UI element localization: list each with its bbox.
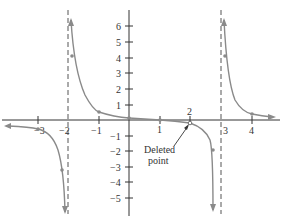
y-tick-label: −2 — [110, 146, 121, 157]
arrowheads — [4, 18, 276, 214]
x-tick-label: 2 — [187, 106, 192, 117]
y-tick-label: 3 — [116, 68, 121, 79]
arrow-up-icon — [68, 18, 74, 26]
y-tick-label: 6 — [116, 21, 121, 32]
x-tick-label: 3 — [223, 125, 228, 136]
y-tick-label: 1 — [116, 100, 121, 111]
graph: −3 −2 −1 1 2 3 4 6 5 4 3 2 1 −1 −2 −3 −4… — [0, 0, 288, 224]
x-tick-label: 4 — [249, 125, 254, 136]
y-tick-label: −3 — [110, 162, 121, 173]
y-tick-label: −1 — [110, 131, 121, 142]
x-tick-label: −2 — [59, 125, 70, 136]
curve-right-branch — [224, 20, 272, 117]
y-tick-label: −4 — [110, 177, 121, 188]
y-tick-label: 4 — [116, 53, 121, 64]
curve-left-branch — [8, 126, 65, 212]
y-tick-label: 5 — [116, 37, 121, 48]
arrow-right-icon — [268, 114, 276, 120]
x-tick-label: −1 — [91, 125, 102, 136]
arrow-left-icon — [4, 123, 11, 129]
x-tick-label: 1 — [157, 124, 162, 135]
annotation-arrowhead-icon — [184, 124, 189, 130]
arrow-down-icon — [62, 206, 68, 214]
arrow-down-icon — [210, 204, 216, 212]
y-tick-label: −5 — [110, 193, 121, 204]
annotation-deleted: Deleted — [144, 144, 175, 155]
y-tick-label: 2 — [116, 84, 121, 95]
annotation-point: point — [148, 155, 169, 166]
arrow-up-icon — [221, 18, 227, 26]
